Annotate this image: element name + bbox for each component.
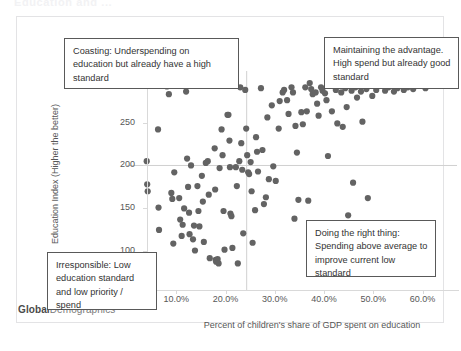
scatter-point [298,109,304,115]
scatter-point [250,240,256,246]
scatter-point [156,227,162,233]
scatter-point [190,236,196,242]
scatter-point [314,101,320,107]
scatter-point [325,153,331,159]
chart-frame: 10.0%20.0%30.0%40.0%50.0%60.0% 100150200… [16,16,444,323]
scatter-point [233,164,239,170]
scatter-point [239,167,245,173]
scatter-point [313,89,319,95]
scatter-point [270,163,276,169]
scatter-point [155,204,161,210]
y-tick-label: 150 [99,202,135,212]
scatter-point [294,149,300,155]
scatter-point [259,147,265,153]
scatter-point [365,195,371,201]
scatter-point [285,111,291,117]
scatter-point [186,210,192,216]
scatter-point [180,222,186,228]
scatter-point [188,162,194,168]
y-tick-label: 250 [99,117,135,127]
scatter-point [168,190,174,196]
x-tick-label: 30.0% [249,294,301,304]
scatter-point [184,156,190,162]
scatter-point [369,93,375,99]
scatter-point [261,201,267,207]
scatter-point [284,97,290,103]
y-axis-title: Education Index (Higher the better) [50,74,60,274]
scatter-point [323,97,329,103]
scatter-point [334,120,340,126]
scatter-point [195,208,201,214]
y-tick-label: 200 [99,159,135,169]
scatter-point [255,168,261,174]
scatter-point [307,80,313,86]
scatter-point [236,158,242,164]
scatter-point [345,212,351,218]
scatter-point [292,123,298,129]
callout-maintaining: Maintaining the advantage. High spend bu… [324,37,459,89]
scatter-point [340,124,346,130]
scatter-point [246,171,252,177]
x-tick-label: 50.0% [347,294,399,304]
scatter-point [212,145,218,151]
scatter-point [179,233,185,239]
x-tick-label: 40.0% [298,294,350,304]
scatter-point [264,114,270,120]
scatter-point [170,241,176,247]
scatter-point [207,255,213,261]
scatter-point [221,247,227,253]
scatter-point [176,195,182,201]
scatter-point [235,260,241,266]
scatter-point [220,208,226,214]
scatter-point [218,126,224,132]
scatter-point [200,198,206,204]
scatter-point [329,108,335,114]
scatter-point [263,194,269,200]
scatter-point [166,91,172,97]
scatter-point [277,98,283,104]
y-tick-mark [143,123,147,124]
scatter-point [199,173,205,179]
x-tick-label: 20.0% [200,294,252,304]
scatter-point [191,222,197,228]
scatter-point [258,85,264,91]
scatter-point [354,95,360,101]
callout-coasting: Coasting: Underspending on education but… [64,38,239,89]
brand-bold-word: Global [18,304,50,315]
scatter-point [344,104,350,110]
scatter-point [185,184,191,190]
scatter-point [240,230,246,236]
x-tick-label: 10.0% [150,294,202,304]
scatter-point [290,89,296,95]
x-tick-label: 60.0% [397,294,449,304]
scatter-point [229,245,235,251]
scatter-point [181,205,187,211]
scatter-point [269,102,275,108]
scatter-point [196,223,202,229]
scatter-point [171,169,177,175]
scatter-point [192,247,198,253]
scatter-point [302,84,308,90]
scatter-point [350,180,356,186]
scatter-point [359,119,365,125]
scatter-point [234,183,240,189]
scatter-point [219,152,225,158]
scatter-point [186,231,192,237]
scatter-point [216,260,222,266]
scatter-point [243,125,249,131]
scatter-point [155,126,161,132]
scatter-point [300,121,306,127]
scatter-point [201,239,207,245]
scatter-point [253,134,259,140]
y-tick-mark [143,208,147,209]
slide-title: Education and ... [14,0,254,8]
scatter-point [281,87,287,93]
scatter-point [254,149,260,155]
scatter-point [358,89,364,95]
scatter-point [316,113,322,119]
scatter-point [322,90,328,96]
scatter-point [183,89,189,95]
scatter-point [248,159,254,165]
scatter-point [206,192,212,198]
scatter-point [273,178,279,184]
